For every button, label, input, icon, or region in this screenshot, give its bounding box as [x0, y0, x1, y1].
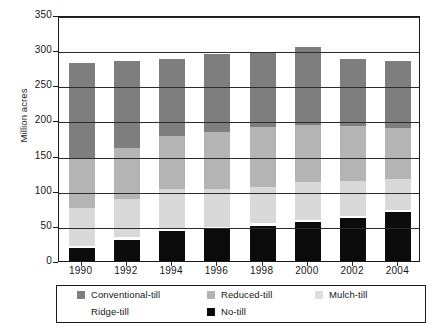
gridline-350: [59, 17, 419, 18]
bar-segment-conventional-till-1996: [204, 54, 230, 133]
bar-segment-reduced-till-1992: [114, 148, 140, 199]
bar-segment-conventional-till-2000: [295, 47, 321, 125]
y-tick-label-50: 50: [12, 220, 52, 231]
x-tick-label-2004: 2004: [367, 265, 427, 276]
x-tick-mark-1994: [171, 262, 172, 266]
bar-segment-reduced-till-1990: [69, 158, 95, 207]
x-tick-mark-2000: [307, 262, 308, 266]
bar-segment-mulch-till-2002: [340, 181, 366, 216]
bar-segment-reduced-till-1994: [159, 136, 185, 189]
bar-segment-no-till-2004: [385, 212, 411, 261]
gridline-250: [59, 87, 419, 88]
legend-label: Conventional-till: [91, 289, 160, 300]
y-tick-label-300: 300: [12, 44, 52, 55]
bar-segment-mulch-till-1992: [114, 199, 140, 237]
legend-swatch-mulch-till: [315, 291, 323, 299]
y-tick-mark-100: [53, 192, 58, 193]
x-tick-mark-1990: [81, 262, 82, 266]
bar-segment-mulch-till-1996: [204, 189, 230, 227]
bar-segment-no-till-1992: [114, 240, 140, 261]
y-tick-mark-200: [53, 121, 58, 122]
bar-segment-mulch-till-2000: [295, 182, 321, 219]
bar-segment-conventional-till-1990: [69, 63, 95, 159]
legend-item-conventional-till[interactable]: Conventional-till: [77, 289, 160, 300]
legend-label: No-till: [221, 306, 246, 317]
plot-area: [58, 16, 420, 262]
legend-label: Ridge-till: [91, 306, 129, 317]
legend-item-mulch-till[interactable]: Mulch-till: [315, 289, 367, 300]
bar-segment-conventional-till-1992: [114, 61, 140, 148]
y-tick-mark-150: [53, 157, 58, 158]
bar-segment-no-till-2002: [340, 218, 366, 261]
bar-segment-conventional-till-2004: [385, 61, 411, 127]
y-tick-label-0: 0: [12, 255, 52, 266]
gridline-50: [59, 228, 419, 229]
bar-segment-reduced-till-2002: [340, 126, 366, 181]
bar-segment-reduced-till-2000: [295, 125, 321, 183]
y-tick-mark-250: [53, 86, 58, 87]
legend-row-2: Ridge-tillNo-till: [57, 306, 425, 323]
x-tick-mark-1992: [126, 262, 127, 266]
y-tick-mark-0: [53, 262, 58, 263]
chart-legend: Conventional-tillReduced-tillMulch-till …: [56, 285, 426, 323]
y-tick-label-250: 250: [12, 79, 52, 90]
y-tick-mark-300: [53, 51, 58, 52]
bar-2002: [340, 59, 366, 261]
bar-segment-mulch-till-1994: [159, 189, 185, 229]
legend-item-reduced-till[interactable]: Reduced-till: [207, 289, 272, 300]
bar-segment-conventional-till-1994: [159, 59, 185, 136]
gridline-100: [59, 193, 419, 194]
gridline-150: [59, 158, 419, 159]
bar-1990: [69, 63, 95, 261]
gridline-200: [59, 122, 419, 123]
legend-row-1: Conventional-tillReduced-tillMulch-till: [57, 289, 425, 306]
legend-label: Mulch-till: [329, 289, 367, 300]
bar-segment-reduced-till-1996: [204, 132, 230, 188]
legend-swatch-reduced-till: [207, 291, 215, 299]
y-tick-mark-50: [53, 227, 58, 228]
bar-segment-conventional-till-1998: [250, 53, 276, 127]
x-tick-mark-2004: [397, 262, 398, 266]
y-tick-mark-350: [53, 16, 58, 17]
bar-1994: [159, 59, 185, 261]
bar-segment-no-till-1998: [250, 226, 276, 261]
bar-segment-reduced-till-2004: [385, 128, 411, 179]
legend-swatch-conventional-till: [77, 291, 85, 299]
y-tick-label-200: 200: [12, 114, 52, 125]
legend-label: Reduced-till: [221, 289, 272, 300]
y-tick-label-150: 150: [12, 150, 52, 161]
x-tick-mark-1998: [262, 262, 263, 266]
bar-2000: [295, 47, 321, 261]
y-tick-label-350: 350: [12, 9, 52, 20]
bar-1992: [114, 61, 140, 261]
bar-segment-conventional-till-2002: [340, 59, 366, 126]
bar-2004: [385, 61, 411, 261]
legend-swatch-ridge-till: [77, 308, 85, 316]
x-tick-mark-2002: [352, 262, 353, 266]
gridline-300: [59, 52, 419, 53]
bar-segment-mulch-till-2004: [385, 179, 411, 210]
bar-segment-no-till-1994: [159, 231, 185, 261]
legend-item-no-till[interactable]: No-till: [207, 306, 246, 317]
legend-item-ridge-till[interactable]: Ridge-till: [77, 306, 129, 317]
legend-swatch-no-till: [207, 308, 215, 316]
y-tick-label-100: 100: [12, 185, 52, 196]
x-tick-mark-1996: [216, 262, 217, 266]
bar-group: [59, 17, 419, 261]
chart-root: Million acres 050100150200250300350 1990…: [0, 0, 440, 329]
bar-segment-no-till-1996: [204, 229, 230, 261]
bar-segment-no-till-1990: [69, 248, 95, 261]
